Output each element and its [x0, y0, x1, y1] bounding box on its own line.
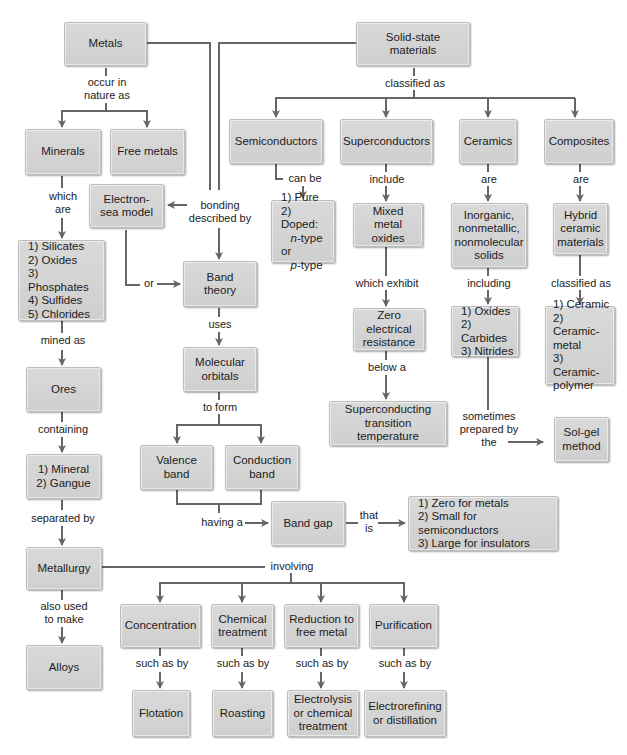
node-reduction-to-free-metal: Reduction to free metal	[284, 604, 359, 648]
node-label: Metallurgy	[37, 562, 90, 576]
label-sometimes-prepared-by: sometimes prepared by the	[456, 410, 522, 449]
node-ceramic-list: 1) Oxides 2) Carbides 3) Nitrides	[451, 306, 519, 357]
label-such-as-concentration: such as by	[134, 657, 190, 670]
node-label: Semiconductors	[235, 135, 317, 149]
node-band-gap: Band gap	[271, 501, 345, 546]
node-zero-electrical-resistance: Zero electrical resistance	[353, 308, 425, 351]
node-label: Conduction band	[233, 454, 291, 481]
node-concentration: Concentration	[120, 604, 201, 648]
label-uses: uses	[203, 318, 237, 331]
label-can-be: can be	[284, 172, 326, 185]
label-involving: involving	[267, 560, 317, 573]
node-label: Band theory	[204, 271, 236, 298]
node-electrolysis: Electrolysis or chemical treatment	[287, 690, 359, 737]
label-mined-as: mined as	[38, 334, 88, 347]
node-hybrid-ceramic-materials: Hybrid ceramic materials	[553, 203, 608, 255]
node-label: 1) Oxides 2) Carbides 3) Nitrides	[461, 305, 514, 359]
node-label: Zero electrical resistance	[358, 309, 420, 350]
node-ore-contents: 1) Mineral 2) Gangue	[26, 454, 101, 499]
node-roasting: Roasting	[212, 690, 273, 737]
node-chemical-treatment: Chemical treatment	[211, 604, 274, 648]
node-label: Mixed metal oxides	[358, 205, 418, 246]
node-label: Ceramics	[464, 135, 513, 149]
label-separated-by: separated by	[29, 512, 97, 525]
node-label: Roasting	[220, 707, 265, 721]
semi-type-n-rest: -type or	[281, 232, 323, 258]
node-label: Electrolysis or chemical treatment	[294, 693, 353, 734]
label-classified-as: classified as	[381, 77, 449, 90]
node-label: Hybrid ceramic materials	[557, 209, 604, 250]
node-label: Metals	[89, 37, 123, 51]
semi-type-doped: 2) Doped:	[281, 205, 318, 231]
node-label: Molecular orbitals	[195, 356, 245, 383]
node-label: Valence band	[156, 454, 197, 481]
node-label: Electrorefining or distillation	[368, 700, 442, 727]
node-band-gap-values: 1) Zero for metals 2) Small for semicond…	[408, 496, 558, 551]
node-label: Superconducting transition temperature	[334, 403, 442, 444]
label-bonding-described-by: bonding described by	[187, 199, 253, 225]
label-such-as-purification: such as by	[377, 657, 433, 670]
node-label: Reduction to free metal	[289, 613, 354, 640]
node-label: Chemical treatment	[218, 613, 267, 640]
node-molecular-orbitals: Molecular orbitals	[183, 347, 257, 392]
node-label: 1) Ceramic 2) Ceramic- metal 3) Ceramic-…	[553, 298, 610, 393]
label-to-form: to form	[200, 401, 240, 414]
node-label: Free metals	[117, 145, 178, 159]
node-sol-gel-method: Sol-gel method	[554, 417, 609, 462]
node-label: 1) Pure2) Doped: n-type or p-type	[281, 191, 330, 272]
node-metals: Metals	[64, 22, 147, 66]
label-including: including	[464, 277, 514, 290]
node-label: Band gap	[283, 517, 332, 531]
node-label: 1) Mineral 2) Gangue	[36, 463, 90, 490]
node-label: Inorganic, nonmetallic, nonmolecular sol…	[454, 209, 523, 263]
node-ores: Ores	[26, 367, 101, 412]
node-label: Ores	[51, 383, 76, 397]
node-purification: Purification	[369, 604, 438, 648]
label-composites-are: are	[567, 173, 595, 186]
node-electrorefining: Electrorefining or distillation	[364, 690, 446, 737]
node-metallurgy: Metallurgy	[26, 547, 102, 590]
node-label: Composites	[549, 135, 610, 149]
node-label: Concentration	[125, 619, 197, 633]
label-containing: containing	[35, 423, 91, 436]
node-mineral-list: 1) Silicates 2) Oxides 3) Phosphates 4) …	[18, 240, 105, 321]
label-also-used-to-make: also used to make	[37, 600, 91, 626]
label-ceramics-are: are	[475, 173, 503, 186]
label-such-as-reduction: such as by	[294, 657, 350, 670]
label-or: or	[140, 277, 158, 290]
label-that-is: that is	[358, 509, 380, 535]
node-semiconductor-types: 1) Pure2) Doped: n-type or p-type	[271, 200, 335, 263]
label-having-a: having a	[198, 516, 246, 529]
node-label: Sol-gel method	[562, 426, 600, 453]
node-inorganic-solids: Inorganic, nonmetallic, nonmolecular sol…	[451, 203, 527, 268]
node-solid-state-materials: Solid-state materials	[356, 22, 470, 66]
node-label: 1) Zero for metals 2) Small for semicond…	[418, 497, 553, 551]
label-occur-in-nature: occur in nature as	[80, 76, 134, 102]
node-composite-list: 1) Ceramic 2) Ceramic- metal 3) Ceramic-…	[545, 306, 615, 385]
node-conduction-band: Conduction band	[225, 445, 299, 490]
label-below-a: below a	[364, 361, 410, 374]
label-composites-classified-as: classified as	[547, 277, 615, 290]
semi-type-p-rest: -type	[297, 259, 323, 271]
node-band-theory: Band theory	[183, 261, 257, 307]
node-ceramics: Ceramics	[459, 119, 517, 164]
node-label: Electron- sea model	[100, 193, 153, 220]
label-which-exhibit: which exhibit	[351, 277, 423, 290]
node-superconducting-transition-temperature: Superconducting transition temperature	[329, 401, 447, 446]
node-semiconductors: Semiconductors	[229, 119, 323, 164]
node-valence-band: Valence band	[140, 445, 213, 490]
node-superconductors: Superconductors	[340, 119, 433, 164]
node-composites: Composites	[544, 119, 614, 164]
node-label: Purification	[375, 619, 432, 633]
label-include: include	[366, 173, 408, 186]
label-such-as-chemical: such as by	[215, 657, 271, 670]
node-label: Solid-state materials	[361, 31, 465, 58]
node-free-metals: Free metals	[110, 129, 185, 175]
node-flotation: Flotation	[132, 690, 190, 737]
semi-type-pure: 1) Pure	[281, 191, 319, 203]
node-label: Flotation	[139, 707, 183, 721]
node-mixed-metal-oxides: Mixed metal oxides	[353, 203, 423, 247]
node-electron-sea-model: Electron- sea model	[89, 184, 164, 228]
node-minerals: Minerals	[25, 129, 101, 175]
node-alloys: Alloys	[26, 645, 102, 690]
